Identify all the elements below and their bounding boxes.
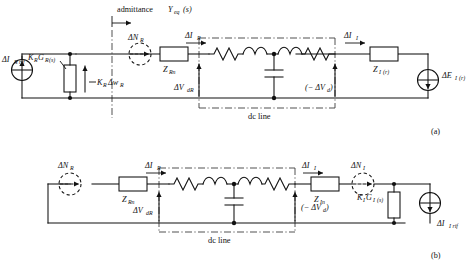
gain-block-a xyxy=(64,52,76,100)
svg-text:R: R xyxy=(69,165,74,171)
inductor-b-right xyxy=(238,177,262,184)
svg-text:ΔN: ΔN xyxy=(57,161,69,170)
svg-text:K: K xyxy=(356,193,363,202)
svg-text:(s): (s) xyxy=(49,57,55,64)
svg-text:R: R xyxy=(119,82,124,88)
admittance-label-arg: (s) xyxy=(183,5,192,14)
svg-text:R rif: R rif xyxy=(13,59,26,65)
svg-text:ΔV: ΔV xyxy=(173,83,185,92)
gain-block-a-label: K R G R (s) xyxy=(27,53,55,64)
svg-text:G: G xyxy=(38,53,44,62)
svg-text:In: In xyxy=(319,199,325,205)
svg-text:I: I xyxy=(372,197,376,203)
z-in-block-b xyxy=(311,177,339,191)
svg-text:(− ΔV: (− ΔV xyxy=(301,203,322,212)
delta-n-r-label-a: ΔN R xyxy=(127,33,144,43)
svg-text:(r): (r) xyxy=(459,75,465,82)
delta-n-r-source-b xyxy=(59,173,81,195)
svg-text:Z: Z xyxy=(163,65,168,74)
svg-text:): ) xyxy=(325,203,329,212)
z-rn-label-a: Z Rn xyxy=(163,65,176,75)
z-i-label-a: Z I (r) xyxy=(373,65,389,76)
dc-line-network-b xyxy=(169,177,295,225)
svg-text:ΔI: ΔI xyxy=(1,55,11,64)
delta-n-r-source-a xyxy=(129,43,151,65)
delta-n-i-source-b xyxy=(352,173,374,195)
svg-text:Rn: Rn xyxy=(127,199,135,205)
panel-a-tag: (a) xyxy=(431,127,440,136)
neg-delta-v-d-label-a: (− ΔV d ) xyxy=(305,83,333,93)
svg-text:G: G xyxy=(366,193,372,202)
delta-i-r-label-a: ΔI R xyxy=(184,31,201,41)
svg-text:ΔI: ΔI xyxy=(436,219,446,228)
svg-text:R: R xyxy=(196,35,201,41)
z-in-label-b: Z In xyxy=(314,195,325,205)
inductor-b-left xyxy=(203,177,227,184)
schematic-svg: admittance Y eq (s) dc line ΔI R rif xyxy=(0,0,471,265)
dc-line-network-a xyxy=(209,47,335,100)
delta-v-dr-label-b: ΔV dR xyxy=(132,206,153,216)
gain-block-b-label: K I G I (s) xyxy=(356,193,383,204)
gain-block-b xyxy=(388,182,400,225)
svg-text:ΔI: ΔI xyxy=(184,31,194,40)
admittance-label-sub: eq xyxy=(174,9,180,15)
dc-line-boundary-b xyxy=(159,168,295,232)
svg-text:dR: dR xyxy=(187,87,194,93)
svg-text:Rn: Rn xyxy=(168,69,176,75)
delta-i-i-label-a: ΔI I xyxy=(343,31,359,41)
inductor-a-left xyxy=(243,47,267,54)
inductor-a-right xyxy=(278,47,302,54)
svg-text:Z: Z xyxy=(122,195,127,204)
gain-arrow-a-label: K R Δw R xyxy=(89,78,124,88)
svg-text:ΔN: ΔN xyxy=(127,33,139,42)
svg-text:I: I xyxy=(355,35,359,41)
svg-text:I: I xyxy=(378,69,382,75)
svg-text:I: I xyxy=(454,75,458,81)
figure-root: admittance Y eq (s) dc line ΔI R rif xyxy=(0,0,471,265)
svg-text:ΔI: ΔI xyxy=(343,31,353,40)
delta-n-i-label-b: ΔN I xyxy=(350,161,366,171)
voltage-source-a-label: ΔE I (r) xyxy=(441,71,465,82)
svg-text:Z: Z xyxy=(373,65,378,74)
z-rn-label-b: Z Rn xyxy=(122,195,135,205)
delta-i-i-label-b: ΔI I xyxy=(301,161,317,171)
dc-line-label-a: dc line xyxy=(248,112,271,121)
current-source-b xyxy=(420,184,441,223)
z-rn-block-a xyxy=(160,47,188,61)
svg-text:(s): (s) xyxy=(377,197,383,204)
z-rn-block-b xyxy=(119,177,147,191)
svg-text:ΔI: ΔI xyxy=(301,161,311,170)
svg-text:R: R xyxy=(139,37,144,43)
delta-i-r-label-b: ΔI R xyxy=(144,161,161,171)
svg-text:(r): (r) xyxy=(383,69,389,76)
z-i-block-a xyxy=(370,47,398,61)
resistor-b-left xyxy=(169,178,203,190)
current-source-b-label: ΔI I rif xyxy=(436,219,459,229)
svg-text:ΔE: ΔE xyxy=(441,71,452,80)
delta-n-r-label-b: ΔN R xyxy=(57,161,74,171)
voltage-source-a xyxy=(418,70,439,91)
svg-text:Δw: Δw xyxy=(107,78,119,87)
dc-line-label-b: dc line xyxy=(208,236,231,245)
svg-text:R: R xyxy=(156,165,161,171)
svg-text:ΔN: ΔN xyxy=(350,161,362,170)
svg-text:K: K xyxy=(96,78,103,87)
svg-text:I rif: I rif xyxy=(448,223,459,229)
svg-text:I: I xyxy=(362,165,366,171)
svg-text:): ) xyxy=(329,83,333,92)
admittance-label-text: admittance xyxy=(117,5,153,14)
svg-text:ΔI: ΔI xyxy=(144,161,154,170)
resistor-a-left xyxy=(209,48,243,60)
svg-text:(− ΔV: (− ΔV xyxy=(305,83,326,92)
svg-text:ΔV: ΔV xyxy=(132,206,144,215)
delta-v-dr-label-a: ΔV dR xyxy=(173,83,194,93)
panel-b-tag: (b) xyxy=(431,251,441,260)
svg-text:R: R xyxy=(102,82,107,88)
svg-text:K: K xyxy=(27,53,34,62)
svg-text:Z: Z xyxy=(314,195,319,204)
resistor-b-right xyxy=(262,178,295,190)
svg-text:I: I xyxy=(313,165,317,171)
admittance-annotation-a: admittance Y eq (s) xyxy=(112,5,192,27)
svg-text:dR: dR xyxy=(146,210,153,216)
